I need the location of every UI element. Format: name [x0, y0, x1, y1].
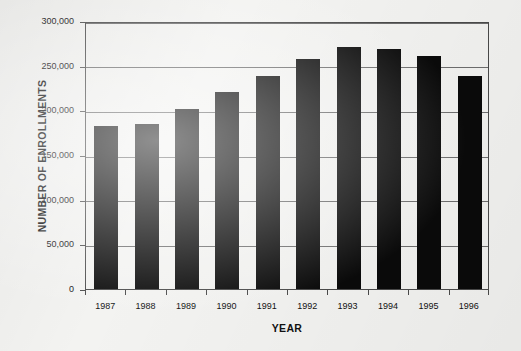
x-axis-tick-labels: 1987198819891990199119921993199419951996 [85, 301, 489, 315]
x-tick-mark [449, 290, 450, 295]
gridline [86, 23, 488, 24]
x-tick-mark [166, 290, 167, 295]
bar [417, 56, 441, 289]
bar [458, 76, 482, 290]
y-axis-tick-labels: 050,000100,000150,000200,000250,000300,0… [0, 0, 78, 351]
plot-area [85, 22, 489, 290]
x-axis-title: YEAR [85, 322, 489, 334]
x-tick-label: 1996 [444, 301, 494, 311]
x-tick-mark [408, 290, 409, 295]
bar [256, 76, 280, 289]
x-tick-mark [368, 290, 369, 295]
x-axis-tick-marks [85, 290, 489, 296]
x-tick-mark [247, 290, 248, 295]
x-tick-mark [488, 290, 489, 295]
bar [337, 47, 361, 289]
x-tick-mark [287, 290, 288, 295]
bar [296, 59, 320, 289]
y-tick-label: 250,000 [0, 61, 74, 71]
y-tick-label: 0 [0, 284, 74, 294]
bar [135, 124, 159, 289]
y-tick-label: 300,000 [0, 16, 74, 26]
bar [377, 49, 401, 289]
x-tick-mark [327, 290, 328, 295]
y-tick-label: 50,000 [0, 239, 74, 249]
x-tick-mark [85, 290, 86, 295]
y-tick-label: 100,000 [0, 195, 74, 205]
bar [175, 109, 199, 289]
chart-page: NUMBER OF ENROLLMENTS 050,000100,000150,… [0, 0, 521, 351]
x-tick-mark [206, 290, 207, 295]
bar [94, 126, 118, 289]
bar [215, 92, 239, 289]
y-tick-label: 200,000 [0, 105, 74, 115]
y-tick-label: 150,000 [0, 150, 74, 160]
x-tick-mark [125, 290, 126, 295]
